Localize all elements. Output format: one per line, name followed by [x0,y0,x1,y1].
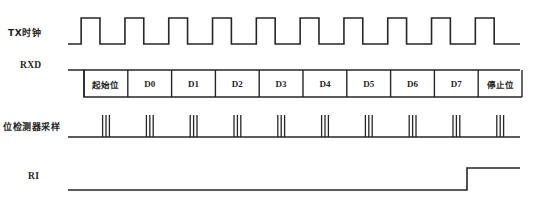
rxd-bit-cell-label: D5 [347,80,391,89]
rxd-bit-cell-label: 停止位 [478,81,522,90]
rxd-bit-cell-label: D6 [391,80,435,89]
rxd-bit-cell-label: D3 [259,80,303,89]
rxd-bit-cell-label: 起始位 [84,81,128,90]
rxd-bit-cell-label: D1 [172,80,216,89]
waveform-canvas [0,0,538,211]
signal-label-tx-clock: TX时钟 [8,29,41,38]
sampling-strobe-ticks [103,115,504,137]
ri-trace [68,168,520,190]
signal-label-rxd: RXD [20,61,41,71]
rxd-bit-cell-label: D2 [215,80,259,89]
rxd-bit-cell-label: D7 [434,80,478,89]
signal-label-ri: RI [28,172,39,182]
tx-clock-trace [68,18,520,44]
signal-label-bit-detector-sampling: 位检测器采样 [3,123,60,132]
timing-diagram: TX时钟 RXD 位检测器采样 RI 起始位D0D1D2D3D4D5D6D7停止… [0,0,538,211]
rxd-bit-cell-label: D0 [128,80,172,89]
tx-clock-waveform [68,18,520,44]
rxd-bit-cell-label: D4 [303,80,347,89]
ri-waveform [68,168,520,190]
